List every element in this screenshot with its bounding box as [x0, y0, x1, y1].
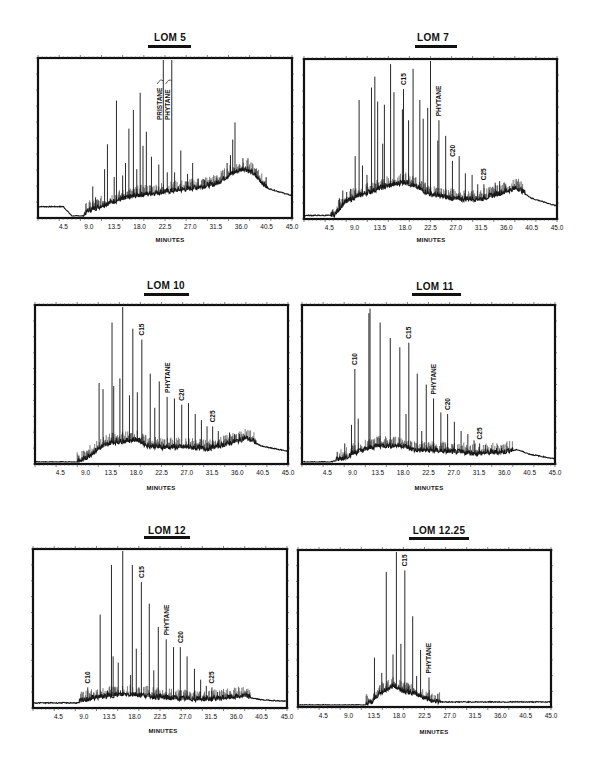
svg-text:36.0: 36.0 [494, 712, 507, 719]
svg-text:18.0: 18.0 [393, 712, 406, 719]
chromatogram-plot: 4.59.013.518.022.527.031.536.040.545.0C1… [0, 0, 590, 758]
svg-text:31.5: 31.5 [469, 712, 482, 719]
svg-text:C15: C15 [401, 554, 408, 566]
svg-text:45.0: 45.0 [545, 712, 558, 719]
svg-text:9.0: 9.0 [344, 712, 353, 719]
svg-text:40.5: 40.5 [519, 712, 532, 719]
svg-text:PHYTANE: PHYTANE [425, 642, 432, 673]
svg-text:22.5: 22.5 [418, 712, 431, 719]
svg-text:27.0: 27.0 [443, 712, 456, 719]
svg-text:13.5: 13.5 [368, 712, 381, 719]
x-axis-label: MINUTES [404, 729, 464, 735]
svg-text:4.5: 4.5 [319, 712, 328, 719]
